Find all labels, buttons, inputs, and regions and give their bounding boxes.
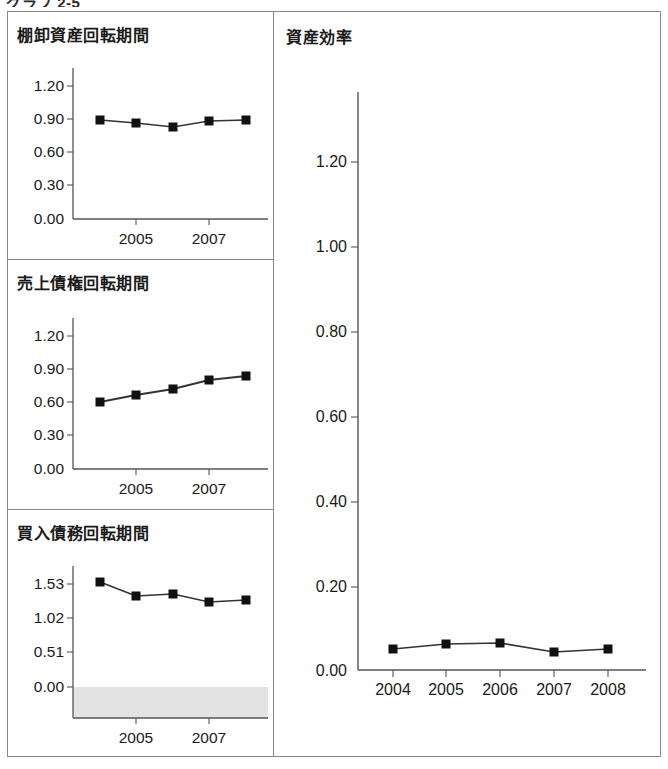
svg-text:1.53: 1.53 — [34, 575, 64, 592]
panel-payables: 買入債務回転期間 — [8, 510, 273, 756]
y-axis-receivables — [67, 318, 73, 469]
svg-text:0.80: 0.80 — [316, 323, 347, 340]
chart-receivables: 1.20 0.90 0.60 0.30 0.00 2005 2007 — [12, 306, 272, 501]
left-column: 棚卸資産回転期間 — [8, 12, 274, 756]
svg-text:2007: 2007 — [192, 230, 226, 247]
svg-text:1.20: 1.20 — [34, 77, 65, 94]
y-axis-payables — [67, 566, 73, 718]
y-tick-labels-inventory: 1.20 0.90 0.60 0.30 0.00 — [34, 77, 65, 227]
chart-payables-svg: 1.53 1.02 0.51 0.00 2005 2007 — [12, 556, 272, 751]
panel-title-receivables: 売上債権回転期間 — [17, 270, 149, 294]
svg-text:1.20: 1.20 — [34, 327, 65, 344]
y-tick-labels-asset-efficiency: 1.20 1.00 0.80 0.60 0.40 0.20 0.00 — [316, 153, 347, 679]
svg-text:0.90: 0.90 — [34, 360, 65, 377]
svg-text:0.51: 0.51 — [34, 643, 64, 660]
svg-text:2004: 2004 — [375, 681, 411, 698]
y-tick-labels-payables: 1.53 1.02 0.51 0.00 — [34, 575, 65, 695]
figure-page: グラフ 2-5 棚卸資産回転期間 — [0, 0, 668, 769]
svg-text:1.02: 1.02 — [34, 609, 64, 626]
series-markers-payables — [96, 578, 251, 607]
svg-text:2007: 2007 — [192, 480, 226, 497]
svg-text:1.20: 1.20 — [316, 153, 347, 170]
svg-text:2006: 2006 — [482, 681, 518, 698]
x-tick-labels-inventory: 2005 2007 — [119, 230, 226, 247]
svg-text:2007: 2007 — [192, 729, 226, 746]
svg-text:2007: 2007 — [536, 681, 572, 698]
svg-text:0.40: 0.40 — [316, 493, 347, 510]
svg-text:2005: 2005 — [428, 681, 464, 698]
svg-text:0.90: 0.90 — [34, 110, 65, 127]
svg-text:0.60: 0.60 — [34, 393, 65, 410]
series-markers-receivables — [96, 372, 251, 407]
y-tick-labels-receivables: 1.20 0.90 0.60 0.30 0.00 — [34, 327, 65, 477]
x-tick-labels-receivables: 2005 2007 — [119, 480, 226, 497]
series-markers-asset-efficiency — [389, 639, 613, 657]
x-axis-payables — [73, 718, 268, 724]
chart-payables: 1.53 1.02 0.51 0.00 2005 2007 — [12, 556, 272, 751]
panel-title-asset-efficiency: 資産効率 — [286, 24, 352, 48]
svg-text:0.00: 0.00 — [34, 460, 65, 477]
chart-asset-efficiency-svg: 1.20 1.00 0.80 0.60 0.40 0.20 0.00 2004 … — [282, 66, 660, 726]
figure-frame: 棚卸資産回転期間 — [7, 11, 661, 757]
chart-asset-efficiency: 1.20 1.00 0.80 0.60 0.40 0.20 0.00 2004 … — [282, 66, 660, 726]
chart-inventory: 1.20 0.90 0.60 0.30 0.00 2005 2007 — [12, 56, 272, 251]
right-column: 資産効率 — [274, 12, 660, 756]
panel-asset-efficiency: 資産効率 — [274, 12, 660, 756]
figure-caption: グラフ 2-5 — [6, 0, 206, 7]
svg-text:0.20: 0.20 — [316, 578, 347, 595]
svg-text:0.30: 0.30 — [34, 176, 65, 193]
chart-inventory-svg: 1.20 0.90 0.60 0.30 0.00 2005 2007 — [12, 56, 272, 251]
svg-text:1.00: 1.00 — [316, 238, 347, 255]
x-tick-labels-asset-efficiency: 2004 2005 2006 2007 2008 — [375, 681, 626, 698]
svg-text:0.60: 0.60 — [316, 408, 347, 425]
svg-text:2005: 2005 — [119, 230, 153, 247]
panel-title-inventory: 棚卸資産回転期間 — [17, 22, 149, 46]
svg-text:0.30: 0.30 — [34, 426, 65, 443]
svg-text:0.00: 0.00 — [34, 678, 65, 695]
x-axis-inventory — [73, 219, 268, 225]
panel-title-payables: 買入債務回転期間 — [17, 520, 149, 544]
y-axis-asset-efficiency — [351, 92, 358, 670]
y-axis-inventory — [67, 68, 73, 219]
panel-inventory: 棚卸資産回転期間 — [8, 12, 273, 260]
svg-text:0.00: 0.00 — [34, 210, 65, 227]
series-markers-inventory — [96, 116, 251, 132]
x-tick-labels-payables: 2005 2007 — [119, 729, 226, 746]
svg-text:2005: 2005 — [119, 480, 153, 497]
svg-text:2008: 2008 — [590, 681, 626, 698]
x-axis-receivables — [73, 469, 268, 475]
shaded-band-payables — [73, 687, 268, 718]
chart-receivables-svg: 1.20 0.90 0.60 0.30 0.00 2005 2007 — [12, 306, 272, 501]
svg-text:0.60: 0.60 — [34, 143, 65, 160]
x-axis-asset-efficiency — [358, 670, 646, 677]
panel-receivables: 売上債権回転期間 — [8, 260, 273, 510]
svg-text:2005: 2005 — [119, 729, 153, 746]
svg-text:0.00: 0.00 — [316, 662, 347, 679]
